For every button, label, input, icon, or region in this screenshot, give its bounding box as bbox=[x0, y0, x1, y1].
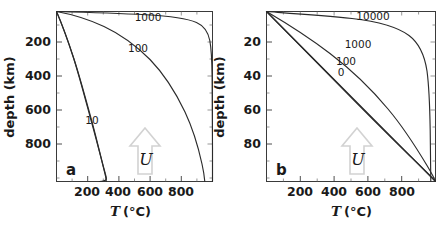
panel-a-curve-10 bbox=[57, 12, 107, 182]
figure-container: depth (km) 200 400 600 800 200 400 600 8… bbox=[0, 0, 443, 229]
panel-a-x-axis-units: (°C) bbox=[123, 204, 151, 219]
panel-b-curve-label-100: 100 bbox=[336, 55, 356, 67]
panel-a-curves bbox=[57, 12, 213, 182]
panel-b-ytick-label-80: 80 bbox=[244, 136, 262, 151]
panel-b-xtick-label-400: 400 bbox=[321, 184, 347, 199]
panel-a-ytick-label-400: 400 bbox=[25, 68, 51, 83]
panel-a-ytick-label-200: 200 bbox=[25, 34, 51, 49]
panel-b-xtick-label-200: 200 bbox=[287, 184, 313, 199]
panel-b-ytick-label-60: 60 bbox=[244, 102, 262, 117]
panel-a-x-axis-symbol: T bbox=[110, 203, 121, 219]
panel-b-ytick-label-40: 40 bbox=[244, 68, 262, 83]
panel-a-ytick-label-600: 600 bbox=[25, 102, 51, 117]
panel-a-curve-label-1000: 1000 bbox=[135, 11, 162, 23]
panel-a-xtick-label-400: 400 bbox=[105, 184, 131, 199]
panel-b-curve-label-1000: 1000 bbox=[345, 38, 372, 50]
panel-a-uplift-arrow-label: U bbox=[139, 150, 153, 169]
panel-b: depth (km) 20 40 60 80 200 400 600 800 T… bbox=[212, 10, 436, 219]
panel-b-uplift-arrow-label: U bbox=[351, 150, 365, 169]
panel-b-top-ticks bbox=[283, 12, 418, 16]
panel-a-x-axis-title: T (°C) bbox=[110, 203, 151, 219]
panel-a-xtick-label-800: 800 bbox=[168, 184, 194, 199]
panel-a-y-axis-title: depth (km) bbox=[2, 56, 17, 138]
panel-a-letter: a bbox=[66, 161, 76, 179]
panel-b-y-axis-title: depth (km) bbox=[212, 56, 227, 138]
panel-a-curve-10-fix bbox=[57, 12, 107, 182]
panel-a-curve-label-10: 10 bbox=[85, 114, 98, 126]
panel-a-curve-1000 bbox=[57, 12, 213, 182]
panel-a-curve-label-100: 100 bbox=[128, 42, 148, 54]
panel-a-xtick-label-600: 600 bbox=[137, 184, 163, 199]
panel-b-right-ticks bbox=[431, 25, 436, 178]
panel-b-x-axis-title: T (°C) bbox=[331, 203, 372, 219]
panel-b-xtick-label-800: 800 bbox=[389, 184, 415, 199]
panel-b-uplift-arrow: U bbox=[342, 128, 372, 174]
figure-svg: depth (km) 200 400 600 800 200 400 600 8… bbox=[0, 0, 443, 229]
panel-b-x-axis-symbol: T bbox=[331, 203, 342, 219]
panel-b-letter: b bbox=[276, 161, 287, 179]
panel-b-ytick-label-20: 20 bbox=[244, 34, 262, 49]
panel-b-xtick-label-600: 600 bbox=[355, 184, 381, 199]
panel-b-curve-label-10000: 10000 bbox=[356, 10, 389, 22]
panel-a-xtick-label-200: 200 bbox=[74, 184, 100, 199]
panel-a-uplift-arrow: U bbox=[130, 128, 160, 174]
panel-a-ytick-label-800: 800 bbox=[25, 136, 51, 151]
panel-b-curve-label-0: 0 bbox=[338, 66, 345, 78]
panel-b-x-axis-units: (°C) bbox=[344, 204, 372, 219]
panel-a: depth (km) 200 400 600 800 200 400 600 8… bbox=[2, 11, 213, 219]
panel-a-curve-100 bbox=[57, 12, 205, 182]
panel-a-plot-frame bbox=[57, 12, 213, 182]
